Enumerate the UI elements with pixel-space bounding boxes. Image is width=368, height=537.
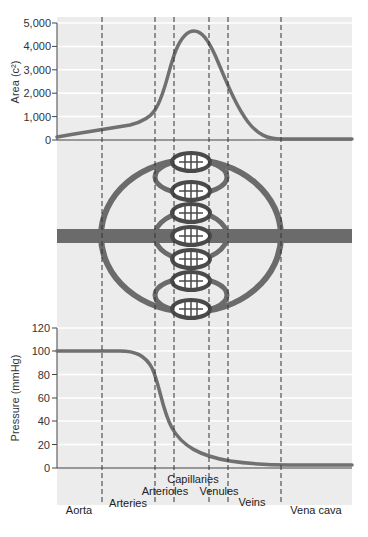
area-tick-4000: 4,000 [23, 40, 51, 52]
pressure-tick-60: 60 [38, 392, 50, 404]
pressure-tick-80: 80 [38, 369, 50, 381]
pressure-tick-120: 120 [32, 322, 50, 334]
area-tick-5000: 5,000 [23, 17, 51, 29]
label-capillaries: Capillaries [167, 473, 219, 485]
pressure-tick-0: 0 [44, 462, 50, 474]
label-arteries: Arteries [109, 497, 147, 509]
label-vena-cava: Vena cava [290, 504, 342, 516]
label-venules: Venules [199, 485, 239, 497]
area-tick-2000: 2,000 [23, 87, 51, 99]
area-tick-0: 0 [45, 134, 51, 146]
pressure-tick-20: 20 [38, 439, 50, 451]
area-tick-3000: 3,000 [23, 64, 51, 76]
pressure-tick-100: 100 [32, 345, 50, 357]
circulation-figure: 0 1,000 2,000 3,000 4,000 5,000 Area (c²… [0, 0, 368, 537]
pressure-y-label: Pressure (mmHg) [9, 355, 21, 442]
label-veins: Veins [239, 496, 266, 508]
label-arterioles: Arterioles [142, 485, 189, 497]
pressure-tick-40: 40 [38, 415, 50, 427]
label-aorta: Aorta [66, 504, 93, 516]
area-tick-1000: 1,000 [23, 111, 51, 123]
area-y-label: Area (c²) [9, 61, 21, 104]
